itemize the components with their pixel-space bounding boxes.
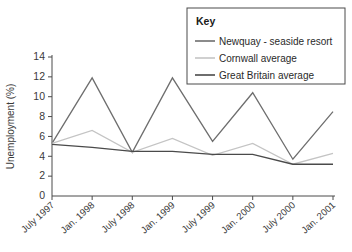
y-axis-tick-label: 6	[39, 130, 45, 142]
y-axis-tick-label: 10	[33, 90, 45, 102]
y-axis-tick-label: 0	[39, 189, 45, 201]
legend-label-2: Great Britain average	[219, 70, 314, 81]
x-axis-tick-label: Jan. 2000	[219, 199, 257, 235]
chart-plot-area: 02468101214Unemployment (%)July 1997Jan.…	[0, 0, 352, 252]
x-axis-tick-label: Jan. 2001	[299, 199, 337, 235]
y-axis-tick-label: 8	[39, 110, 45, 122]
x-axis-tick-label: Jan. 1998	[58, 199, 96, 235]
legend-label-1: Cornwall average	[219, 53, 297, 64]
x-axis-tick-label: Jan. 1999	[138, 199, 176, 235]
x-axis-tick-label: July 1999	[179, 199, 217, 234]
legend-title: Key	[196, 15, 215, 27]
x-axis-tick-label: July 1997	[19, 199, 57, 234]
y-axis-tick-label: 4	[39, 150, 45, 162]
x-axis-tick-label: July 2000	[260, 199, 298, 234]
y-axis-tick-label: 2	[39, 169, 45, 181]
unemployment-line-chart: 02468101214Unemployment (%)July 1997Jan.…	[0, 0, 352, 252]
y-axis-tick-label: 14	[33, 50, 45, 62]
x-axis-tick-label: July 1998	[99, 199, 137, 234]
y-axis-title: Unemployment (%)	[5, 84, 16, 170]
y-axis-tick-label: 12	[33, 70, 45, 82]
legend-label-0: Newquay - seaside resort	[219, 36, 333, 47]
